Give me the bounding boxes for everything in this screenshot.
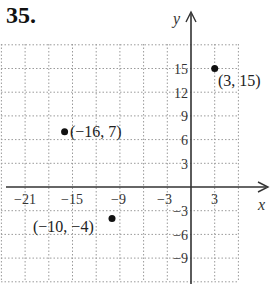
x-tick: −15 [61, 192, 83, 207]
x-tick: −21 [14, 192, 36, 207]
grid [1, 44, 239, 282]
y-axis [186, 12, 196, 284]
y-tick: 9 [181, 109, 188, 124]
y-tick: −3 [173, 204, 188, 219]
x-axis-label: x [257, 196, 265, 213]
y-tick: 12 [174, 86, 188, 101]
y-tick: 15 [174, 62, 188, 77]
y-tick: 3 [181, 157, 188, 172]
y-axis-label: y [171, 10, 181, 28]
x-tick: −3 [157, 192, 172, 207]
point-label: (−16, 7) [70, 123, 122, 141]
point-marker-icon [211, 65, 218, 72]
point-label: (−10, −4) [33, 218, 94, 236]
y-tick: 6 [181, 133, 188, 148]
point-label: (3, 15) [218, 72, 261, 90]
point-marker-icon [61, 128, 68, 135]
coordinate-plane: y x −21 −15 −9 −3 3 15 12 9 6 3 −3 −6 −9… [0, 0, 278, 291]
y-tick: −9 [173, 251, 188, 266]
point-neg16-7: (−16, 7) [61, 123, 122, 141]
point-neg10-neg4: (−10, −4) [33, 215, 116, 236]
x-tick: 3 [211, 192, 218, 207]
x-tick: −9 [111, 192, 126, 207]
y-tick-labels: 15 12 9 6 3 −3 −6 −9 [173, 62, 188, 266]
y-tick: −6 [173, 228, 188, 243]
x-axis [6, 182, 268, 192]
point-marker-icon [109, 215, 116, 222]
